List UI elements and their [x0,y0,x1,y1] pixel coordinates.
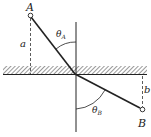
label-theta-a: θA [56,29,66,40]
angle-arc-theta-b [76,90,105,109]
angle-arc-theta-a [56,42,76,49]
label-point-b: B [137,117,146,130]
ray-b-segment [75,74,140,108]
label-distance-a: a [20,38,26,49]
label-theta-b: θB [92,105,102,116]
refraction-diagram: A B a b θA θB [0,0,151,137]
ray-a-segment [31,17,75,74]
label-distance-b: b [144,84,150,95]
point-b-marker [140,107,145,112]
label-point-a: A [25,1,34,14]
